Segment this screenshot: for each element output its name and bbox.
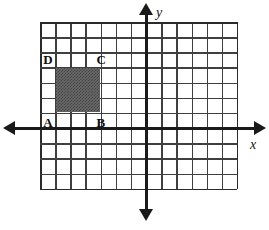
grid-line-horizontal	[40, 158, 237, 160]
vertex-label-b: B	[97, 116, 106, 129]
grid-line-vertical	[101, 22, 103, 189]
x-axis-label: x	[250, 138, 256, 152]
grid-line-horizontal	[40, 52, 237, 54]
coordinate-plane-figure: y x D C A B	[0, 0, 269, 230]
grid-line-horizontal	[40, 113, 237, 115]
y-axis-label: y	[156, 6, 162, 20]
grid-line-horizontal	[40, 37, 237, 39]
grid-line-vertical	[192, 22, 194, 189]
x-axis-right-arrow-icon	[254, 121, 266, 135]
vertex-label-a: A	[43, 116, 52, 129]
vertex-label-c: C	[97, 53, 106, 66]
y-axis-down-arrow-icon	[139, 209, 153, 221]
grid-line-vertical	[237, 22, 239, 189]
grid-line-horizontal	[40, 189, 237, 191]
vertex-label-d: D	[43, 53, 52, 66]
shaded-rectangle	[56, 68, 100, 112]
grid-line-horizontal	[40, 174, 237, 176]
grid-line-vertical	[207, 22, 209, 189]
grid-line-vertical	[161, 22, 163, 189]
x-axis-left-arrow-icon	[3, 121, 15, 135]
grid-line-vertical	[176, 22, 178, 189]
grid-line-vertical	[131, 22, 133, 189]
y-axis-line	[145, 14, 148, 210]
y-axis-up-arrow-icon	[139, 3, 153, 15]
grid-line-vertical	[40, 22, 42, 189]
grid-line-horizontal	[40, 143, 237, 145]
grid-line-horizontal	[40, 22, 237, 24]
grid-line-vertical	[222, 22, 224, 189]
grid-line-vertical	[116, 22, 118, 189]
